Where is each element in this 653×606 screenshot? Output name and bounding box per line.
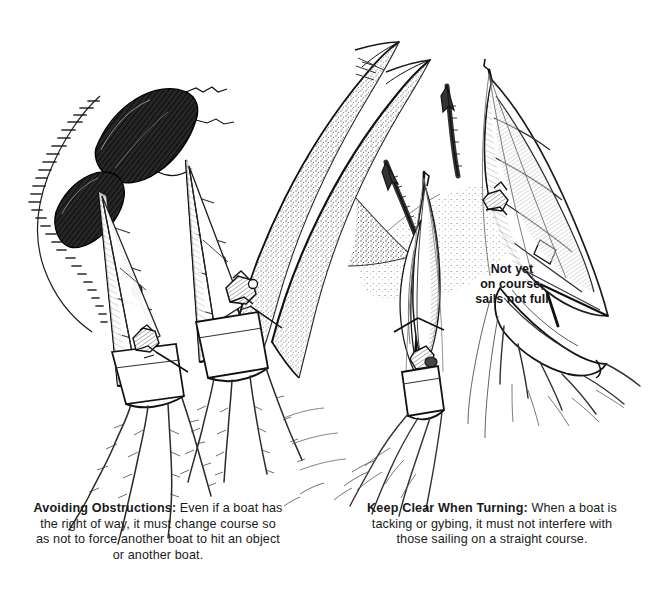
boat-wake — [188, 368, 302, 482]
sailboat-leeward — [69, 192, 216, 544]
boat-wake — [500, 326, 640, 414]
illustration-page: Not yet on course, sails not full Avoidi… — [0, 0, 653, 606]
left-scene — [29, 42, 430, 544]
wind-curve — [237, 42, 430, 378]
rock-foam — [29, 101, 107, 322]
caption-left-lead: Avoiding Obstructions: — [34, 501, 177, 515]
sailboat-tacking — [350, 172, 444, 516]
caption-avoiding-obstructions: Avoiding Obstructions: Even if a boat ha… — [32, 501, 284, 563]
sailboat-straight-course — [468, 59, 640, 438]
caption-right-lead: Keep Clear When Turning: — [367, 501, 528, 515]
label-line-2: on course, — [452, 277, 572, 292]
sailboat-windward — [180, 160, 346, 482]
rock-obstruction — [29, 87, 234, 332]
course-arrow-right — [441, 86, 462, 176]
not-yet-on-course-label: Not yet on course, sails not full — [452, 262, 572, 308]
caption-keep-clear-when-turning: Keep Clear When Turning: When a boat is … — [366, 501, 618, 548]
label-line-1: Not yet — [452, 262, 572, 277]
label-line-3: sails not full — [452, 292, 572, 307]
luffing-sail — [413, 186, 440, 372]
course-arrow-left — [382, 162, 422, 250]
